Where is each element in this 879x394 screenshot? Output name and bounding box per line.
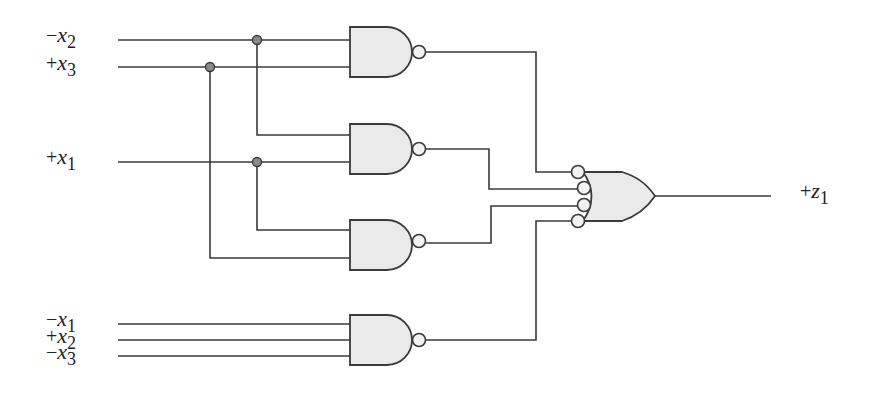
wire-x1-branch (257, 162, 350, 230)
input-label-x2-neg: −x2 (46, 24, 76, 46)
nand-gate-4 (350, 315, 426, 365)
or-input-bubble-4 (572, 215, 585, 228)
or-input-bubble-2 (578, 182, 591, 195)
wire-nand4-to-or (426, 221, 572, 340)
wire-x2-branch (257, 40, 350, 135)
junction-dot-x1 (253, 158, 262, 167)
nand-gate-1 (350, 27, 426, 77)
logic-circuit-diagram (0, 0, 879, 394)
input-label-x1-pos: +x1 (46, 146, 76, 168)
junction-dot-x2 (253, 36, 262, 45)
or-input-bubble-1 (572, 166, 585, 179)
nand-2-bubble (413, 143, 426, 156)
nand-1-bubble (413, 46, 426, 59)
input-label-x3-neg: −x3 (46, 341, 76, 363)
wire-nand2-to-or (426, 149, 577, 189)
nand-3-bubble (413, 235, 426, 248)
junction-dot-x3 (206, 63, 215, 72)
nand-gate-3 (350, 220, 426, 270)
or-input-bubble-3 (578, 199, 591, 212)
nand-gate-2 (350, 124, 426, 174)
nand-4-bubble (413, 334, 426, 347)
input-label-x3-pos: +x3 (46, 52, 76, 74)
wire-nand1-to-or (426, 52, 572, 172)
or-gate (572, 166, 656, 228)
wire-nand3-to-or (426, 206, 577, 243)
output-label-z1: +z1 (800, 180, 829, 202)
